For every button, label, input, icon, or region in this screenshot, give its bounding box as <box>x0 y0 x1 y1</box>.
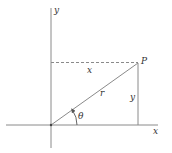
x-segment-label: x <box>87 65 92 75</box>
angle-arc <box>73 110 78 125</box>
angle-theta-label: θ <box>78 111 84 121</box>
radius-label: r <box>100 88 105 98</box>
polar-coordinates-diagram: y x P x y r θ <box>0 0 172 153</box>
y-axis-label: y <box>53 5 60 15</box>
y-segment-label: y <box>129 92 136 102</box>
x-axis-label: x <box>153 126 158 136</box>
origin-point <box>50 124 52 126</box>
radius-line <box>51 63 138 125</box>
point-p-label: P <box>140 56 148 66</box>
